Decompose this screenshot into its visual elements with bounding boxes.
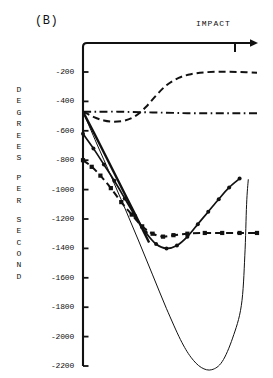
series-marker-dot (133, 214, 137, 218)
series-marker-square (81, 158, 85, 162)
plot-area (0, 0, 273, 378)
series-marker-square (109, 186, 113, 190)
series-marker-dot (238, 177, 242, 181)
axis-lines (83, 43, 251, 366)
series-marker-dot (154, 242, 158, 246)
series-marker-dot (185, 235, 189, 239)
series-marker-dot (165, 246, 169, 250)
chart-root: (B) IMPACT DEGREESPERSECOND -200-400-600… (0, 0, 273, 378)
series-marker-dot (217, 197, 221, 201)
series-marker-dot (196, 222, 200, 226)
series-line (83, 134, 240, 249)
series-marker-dot (206, 210, 210, 214)
series-marker-square (90, 165, 94, 169)
series-marker-dot (175, 243, 179, 247)
series-marker-square (255, 231, 259, 235)
axis-arrow-icon (250, 39, 258, 47)
series-marker-dot (81, 132, 85, 136)
series-marker-dot (144, 230, 148, 234)
series-marker-square (151, 232, 155, 236)
series-marker-dot (123, 196, 127, 200)
series-line (83, 112, 248, 370)
series-marker-dot (227, 185, 231, 189)
series-line (83, 112, 257, 114)
series-marker-square (220, 231, 224, 235)
series-marker-square (98, 174, 102, 178)
series-marker-square (238, 231, 242, 235)
series-marker-dot (91, 146, 95, 150)
series-marker-square (171, 233, 175, 237)
data-series (81, 72, 259, 370)
series-marker-square (203, 231, 207, 235)
series-marker-square (161, 235, 165, 239)
series-line (83, 72, 257, 122)
